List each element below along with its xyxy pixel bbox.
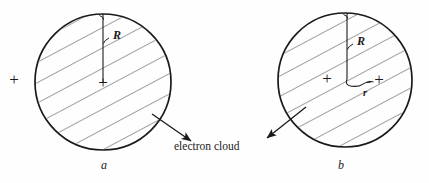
arrow-from-panel-a <box>152 114 191 141</box>
electron-cloud-caption: electron cloud <box>174 141 239 153</box>
panel-letter-b: b <box>338 159 344 171</box>
external-positive-charge-a: + <box>9 71 19 88</box>
radius-label-a: R <box>113 29 121 41</box>
panel-b-group <box>272 6 420 156</box>
offset-label-b: r <box>363 88 367 99</box>
figure-container: + + R a + + R r b electron cloud <box>0 0 429 183</box>
displaced-nucleus-plus-b: + <box>374 71 384 88</box>
radius-label-b: R <box>357 35 365 47</box>
nucleus-plus-b: + <box>322 70 332 87</box>
panel-letter-a: a <box>101 159 107 171</box>
nucleus-plus-a: + <box>98 74 108 91</box>
